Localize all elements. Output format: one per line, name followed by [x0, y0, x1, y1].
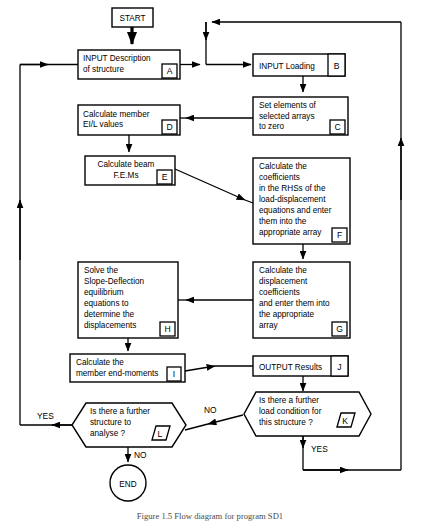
node-b-tag: B	[334, 61, 340, 71]
node-f-line-3: load-displacement	[259, 195, 326, 204]
node-i-line-0: Calculate the	[76, 358, 124, 367]
node-f-line-5: them into the	[259, 217, 307, 226]
node-j[interactable]: OUTPUT Results J	[253, 356, 348, 376]
node-h-line-0: Solve the	[84, 266, 119, 275]
node-c-tag: C	[334, 122, 340, 132]
node-f-line-4: equations and enter	[259, 206, 332, 215]
flowchart-diagram: START INPUT Description of structure A I…	[0, 0, 421, 523]
node-h-line-4: determine the	[84, 310, 135, 319]
node-k-line-1: load condition for	[259, 407, 322, 416]
node-f-tag: F	[337, 230, 342, 240]
node-e-line-1: F.E.Ms	[113, 171, 138, 180]
node-h-line-1: Slope-Deflection	[84, 277, 145, 286]
node-a-line-1: of structure	[83, 65, 124, 74]
node-l[interactable]: Is there a further structure to analyse …	[72, 403, 186, 447]
node-d-line-0: Calculate member	[83, 110, 150, 119]
node-h-line-5: displacements	[84, 321, 136, 330]
node-c-line-0: Set elements of	[259, 101, 317, 110]
node-i-line-1: member end-moments	[76, 369, 158, 378]
edge-label-k-yes: YES	[311, 444, 328, 454]
node-h[interactable]: Solve the Slope-Deflection equilibrium e…	[78, 262, 178, 338]
node-j-line-0: OUTPUT Results	[259, 363, 322, 372]
node-g[interactable]: Calculate the displacement coefficients …	[253, 262, 350, 338]
node-f-line-6: appropriate array	[259, 228, 322, 237]
edge-label-l-no: NO	[134, 450, 147, 460]
node-c-line-1: selected arrays	[259, 112, 315, 121]
node-d-line-1: EI/L values	[83, 120, 123, 129]
node-a-tag: A	[167, 66, 173, 76]
node-g-tag: G	[336, 324, 343, 334]
edge-i-to-j	[185, 366, 253, 371]
node-l-line-2: analyse ?	[90, 429, 125, 438]
node-j-tag: J	[337, 362, 341, 372]
node-start-label: START	[119, 14, 145, 23]
node-c[interactable]: Set elements of selected arrays to zero …	[253, 97, 348, 135]
node-h-tag: H	[164, 324, 170, 334]
node-g-line-2: coefficients	[259, 288, 300, 297]
node-k-tag: K	[342, 416, 348, 426]
edge-k-no-to-l	[185, 415, 243, 430]
node-c-line-2: to zero	[259, 122, 284, 131]
node-l-line-0: Is there a further	[90, 407, 150, 416]
node-f-line-1: coefficients	[259, 173, 300, 182]
node-k[interactable]: Is there a further load condition for th…	[244, 392, 371, 436]
node-l-tag: L	[158, 429, 163, 439]
edge-e-to-f	[175, 169, 253, 203]
node-b-line-0: INPUT Loading	[259, 62, 315, 71]
node-g-line-1: displacement	[259, 277, 308, 286]
node-i-tag: I	[173, 369, 175, 379]
node-end[interactable]: END	[110, 465, 146, 501]
edge-label-l-yes: YES	[37, 411, 54, 421]
node-end-label: END	[119, 480, 136, 489]
node-d[interactable]: Calculate member EI/L values D	[78, 105, 180, 135]
node-l-line-1: structure to	[90, 418, 131, 427]
node-g-line-5: array	[259, 321, 279, 330]
node-f-line-0: Calculate the	[259, 162, 307, 171]
node-a[interactable]: INPUT Description of structure A	[78, 50, 180, 79]
node-g-line-3: and enter them into	[259, 299, 330, 308]
node-e-line-0: Calculate beam	[98, 160, 155, 169]
node-k-line-0: Is there a further	[259, 396, 319, 405]
node-g-line-0: Calculate the	[259, 266, 307, 275]
node-a-line-0: INPUT Description	[83, 54, 151, 63]
node-start[interactable]: START	[112, 8, 153, 27]
node-h-line-3: equations to	[84, 299, 129, 308]
node-g-line-4: the appropriate	[259, 310, 315, 319]
node-h-line-2: equilibrium	[84, 288, 124, 297]
node-d-tag: D	[166, 122, 172, 132]
node-e-tag: E	[162, 172, 168, 182]
node-f-line-2: in the RHSs of the	[259, 184, 326, 193]
node-f[interactable]: Calculate the coefficients in the RHSs o…	[253, 158, 350, 244]
node-i[interactable]: Calculate the member end-moments I	[70, 354, 185, 382]
node-e[interactable]: Calculate beam F.E.Ms E	[85, 156, 175, 185]
node-k-line-2: this structure ?	[259, 418, 313, 427]
edge-label-k-no: NO	[204, 405, 217, 415]
figure-caption: Figure 1.5 Flow diagram for program SD1	[137, 511, 283, 521]
node-b[interactable]: INPUT Loading B	[253, 54, 345, 76]
